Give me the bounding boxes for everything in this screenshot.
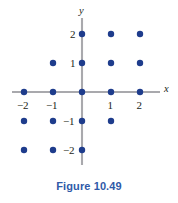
x-tick-label-neg1: −1 [46, 100, 57, 111]
lattice-point [137, 31, 143, 37]
lattice-point [108, 60, 114, 66]
x-tick-label-2: 2 [137, 100, 142, 111]
x-tick-label-neg2: −2 [17, 100, 28, 111]
y-tick-label-neg1: −1 [63, 116, 74, 127]
lattice-point [137, 89, 143, 95]
y-tick-label-1: 1 [70, 58, 75, 69]
lattice-point [50, 89, 56, 95]
lattice-point [79, 89, 85, 95]
y-tick-label-neg2: −2 [63, 145, 74, 156]
plot-svg [0, 0, 178, 175]
lattice-point [79, 147, 85, 153]
lattice-point [21, 147, 27, 153]
lattice-point [108, 89, 114, 95]
lattice-point [21, 89, 27, 95]
lattice-point [50, 118, 56, 124]
x-axis-label: x [164, 84, 169, 95]
y-tick-label-2: 2 [70, 29, 75, 40]
coordinate-plot: x y −2 −1 1 2 2 1 −1 −2 [0, 0, 178, 175]
lattice-point [108, 31, 114, 37]
lattice-point [137, 60, 143, 66]
lattice-point [108, 118, 114, 124]
lattice-point [21, 118, 27, 124]
lattice-point [79, 60, 85, 66]
figure-caption: Figure 10.49 [0, 180, 178, 192]
x-tick-label-1: 1 [108, 100, 113, 111]
lattice-point [50, 147, 56, 153]
y-axis-label: y [79, 6, 84, 17]
lattice-point [79, 31, 85, 37]
lattice-point [79, 118, 85, 124]
lattice-point [50, 60, 56, 66]
figure-container: x y −2 −1 1 2 2 1 −1 −2 Figure 10.49 [0, 0, 178, 203]
